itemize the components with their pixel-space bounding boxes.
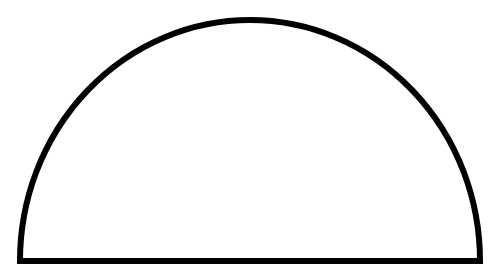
semicircle-shape: [20, 20, 480, 261]
semicircle-figure: [0, 0, 500, 274]
diagram-canvas: [0, 0, 500, 274]
